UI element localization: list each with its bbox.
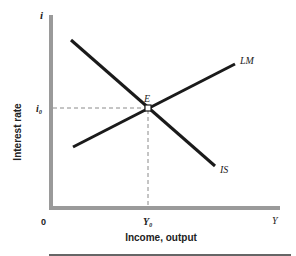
- equilibrium-label: E: [143, 93, 150, 104]
- x-axis-label: Income, output: [125, 232, 197, 243]
- lm-label: LM: [239, 55, 255, 66]
- islm-diagram: i i₀ Interest rate E LM IS 0 Y₀ Y Income…: [0, 0, 296, 256]
- is-curve: [71, 40, 215, 166]
- equilibrium-point: [145, 105, 151, 111]
- origin-label: 0: [41, 217, 46, 227]
- x-axis: [49, 206, 280, 210]
- y-axis-symbol: i: [40, 9, 44, 21]
- is-label: IS: [219, 164, 228, 175]
- y0-label: Y₀: [143, 216, 153, 227]
- y-axis-label: Interest rate: [12, 103, 23, 161]
- i0-label: i₀: [36, 103, 43, 114]
- lm-curve: [73, 64, 235, 147]
- x-axis-symbol: Y: [272, 215, 279, 226]
- y-axis: [49, 15, 53, 210]
